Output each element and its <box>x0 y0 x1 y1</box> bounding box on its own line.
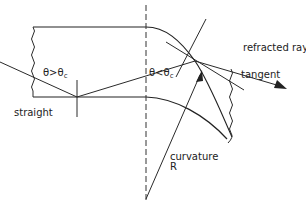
normal-bend <box>176 19 206 77</box>
curvature-arrowhead-icon <box>196 70 203 82</box>
fiber-bottom-edge <box>33 97 227 139</box>
label-curvature: curvature <box>170 151 218 162</box>
reflected-ray <box>77 61 195 97</box>
label-radius: R <box>170 161 177 172</box>
label-tangent: tangent <box>241 69 280 80</box>
label-refracted-ray: refracted ray <box>243 42 306 53</box>
fiber-left-cut <box>32 27 35 97</box>
fiber-top-edge <box>33 27 232 137</box>
curvature-radius-line <box>146 75 200 199</box>
refracted-ray-arrowhead-icon <box>274 80 287 89</box>
label-theta-greater: θ>θc <box>43 67 68 80</box>
label-straight: straight <box>14 107 53 118</box>
fiber-bend-diagram: θ>θc θ<θc straight refracted ray tangent… <box>0 0 306 202</box>
